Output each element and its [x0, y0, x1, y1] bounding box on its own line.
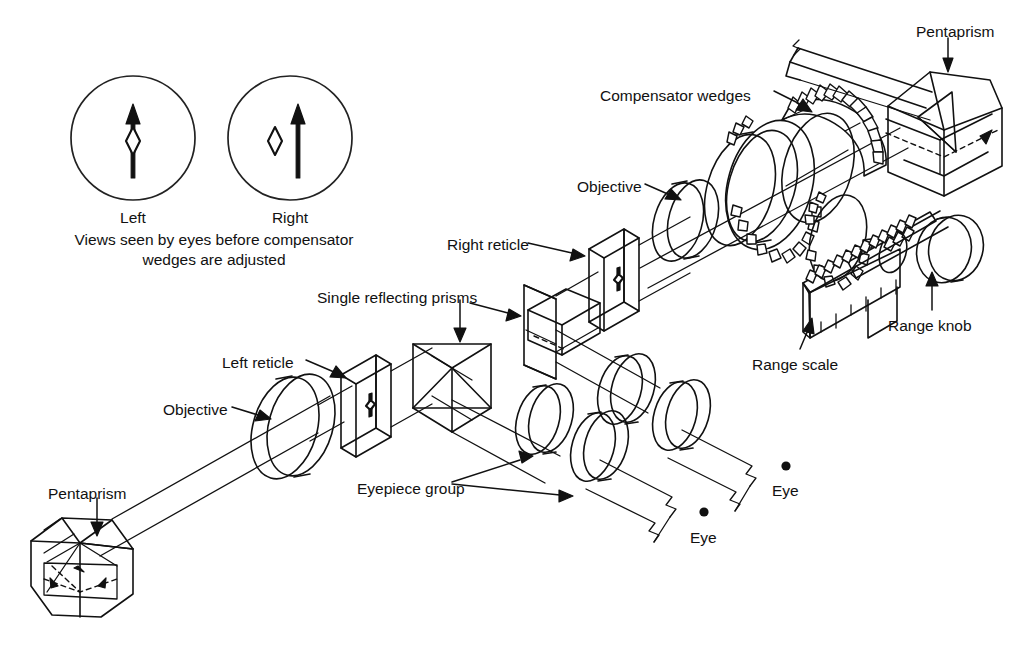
label-single-reflecting-prisms: Single reflecting prisms: [317, 288, 477, 307]
right-reticle: [589, 229, 639, 331]
reflecting-prism-left: [413, 344, 491, 432]
beam-tube-lower-eye: [586, 460, 676, 542]
label-eyepiece-group: Eyepiece group: [357, 479, 465, 498]
label-left-reticle: Left reticle: [222, 353, 294, 372]
views-caption-line1: Views seen by eyes before compensator: [36, 230, 392, 249]
label-pentaprism-lower: Pentaprism: [48, 484, 126, 503]
light-beam-eyepiece-lower: [452, 400, 560, 483]
label-eye-upper: Eye: [772, 481, 799, 500]
view-circle-right: [228, 76, 352, 200]
label-compensator-wedges: Compensator wedges: [600, 86, 751, 105]
view-circle-left: [71, 76, 195, 200]
figure-canvas: Pentaprism Compensator wedges Objective …: [0, 0, 1022, 661]
eye-dot-lower: [699, 507, 708, 516]
pentaprism-upper: [886, 72, 1002, 196]
label-objective-left: Objective: [163, 400, 228, 419]
label-pentaprism-upper: Pentaprism: [916, 22, 994, 41]
label-range-scale: Range scale: [752, 355, 838, 374]
compensator-wedges: [711, 84, 886, 290]
left-reticle: [341, 355, 391, 457]
objective-right: [644, 174, 727, 267]
label-range-knob: Range knob: [888, 316, 972, 335]
beam-tube-upper-eye: [668, 430, 756, 511]
eyepiece-lens-lower-2: [563, 406, 636, 487]
view-label-right: Right: [258, 208, 322, 227]
views-caption-line2: wedges are adjusted: [36, 250, 392, 269]
view-label-left: Left: [101, 208, 165, 227]
leader-lines: [91, 38, 953, 536]
label-eye-lower: Eye: [690, 528, 717, 547]
label-objective-right: Objective: [577, 177, 642, 196]
pentaprism-lower: [31, 518, 133, 617]
label-right-reticle: Right reticle: [447, 235, 529, 254]
eye-dot-upper: [781, 461, 790, 470]
eyepiece-lens-upper-1: [590, 349, 663, 430]
diagram-artwork: [0, 0, 1022, 661]
